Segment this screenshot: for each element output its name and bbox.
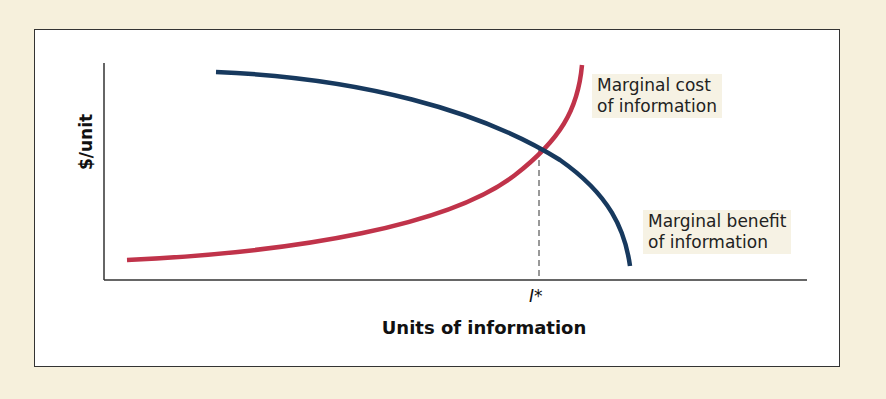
mc-line2: of information (597, 96, 717, 117)
mb-line1: Marginal benefit (648, 211, 786, 232)
mb-line2: of information (648, 232, 786, 253)
istar-tick-label: I* (529, 286, 543, 306)
marginal-benefit-label: Marginal benefit of information (643, 210, 791, 254)
marginal-cost-curve (127, 65, 582, 260)
marginal-cost-label: Marginal cost of information (592, 74, 722, 118)
x-axis-label: Units of information (0, 317, 886, 338)
y-axis-label: $/unit (76, 102, 96, 182)
marginal-benefit-curve (216, 72, 630, 266)
chart-plot (0, 0, 886, 399)
mc-line1: Marginal cost (597, 75, 717, 96)
